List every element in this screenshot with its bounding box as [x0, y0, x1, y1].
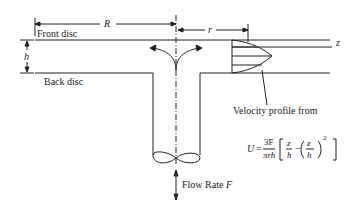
flow-rate-label: Flow Rate F	[182, 180, 232, 190]
eq-den: πrh	[263, 151, 275, 160]
z-axis-label: z	[336, 38, 340, 48]
eq-z1: z	[287, 139, 291, 148]
flow-arrow-left	[152, 48, 176, 70]
eq-power: 2	[323, 135, 327, 142]
eq-h2: h	[307, 151, 312, 160]
gap-h-label: h	[24, 52, 29, 62]
flow-arrow-right	[176, 48, 200, 70]
radius-r-label: r	[208, 25, 212, 35]
eq-lhs: U	[247, 144, 254, 154]
eq-equals: =	[256, 144, 262, 154]
back-disc-label: Back disc	[44, 77, 83, 87]
front-disc-label: Front disc	[37, 29, 77, 39]
eq-num: 3F	[264, 138, 274, 147]
radius-R-label: R	[104, 19, 110, 29]
eq-z2: z	[307, 139, 311, 148]
velocity-caption: Velocity profile from	[233, 106, 317, 116]
eq-h1: h	[287, 151, 292, 160]
eq-minus: −	[295, 144, 301, 154]
